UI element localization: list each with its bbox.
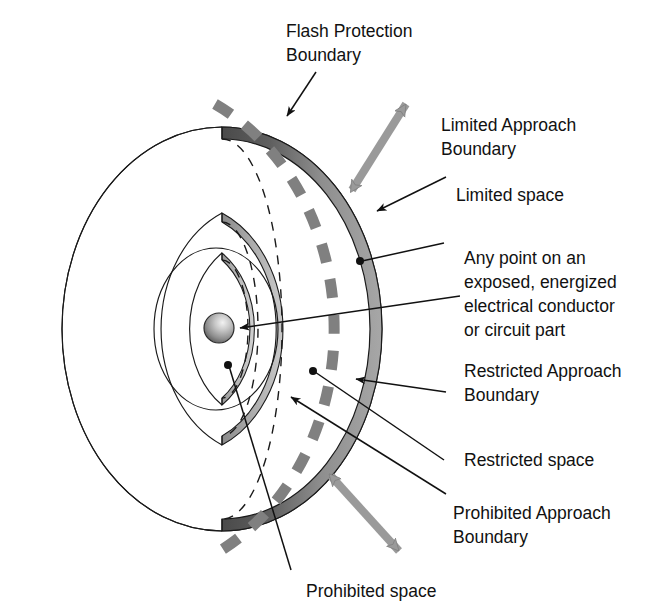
prohibited-approach-boundary-line2: Boundary xyxy=(453,527,528,547)
prohibited-space-line1: Prohibited space xyxy=(306,581,436,601)
leader-dot-limited-space xyxy=(356,257,364,265)
limited-approach-boundary-line1: Limited Approach xyxy=(441,115,576,135)
any-point-line1: Any point on an xyxy=(464,248,586,268)
flash-protection-boundary-line2: Boundary xyxy=(286,45,361,65)
prohibited-approach-boundary-line1: Prohibited Approach xyxy=(453,503,611,523)
approach-boundary-diagram: Flash Protection Boundary Limited Approa… xyxy=(0,0,664,614)
flash-protection-boundary-line1: Flash Protection xyxy=(286,21,412,41)
label-prohibited-space: Prohibited space xyxy=(306,581,436,601)
any-point-line3: electrical conductor xyxy=(464,296,615,316)
restricted-approach-boundary-line2: Boundary xyxy=(464,385,539,405)
leader-dot-prohibited-space xyxy=(224,361,232,369)
leader-dot-restricted-space xyxy=(309,367,317,375)
restricted-space-line1: Restricted space xyxy=(464,450,594,470)
any-point-line4: or circuit part xyxy=(464,320,565,340)
conductor-sphere-body xyxy=(204,313,234,343)
energized-conductor-sphere xyxy=(204,313,234,343)
any-point-line2: exposed, energized xyxy=(464,272,617,292)
limited-space-line1: Limited space xyxy=(456,185,564,205)
label-restricted-space: Restricted space xyxy=(464,450,594,470)
restricted-approach-boundary-line1: Restricted Approach xyxy=(464,361,622,381)
label-limited-space: Limited space xyxy=(456,185,564,205)
limited-approach-boundary-line2: Boundary xyxy=(441,139,516,159)
